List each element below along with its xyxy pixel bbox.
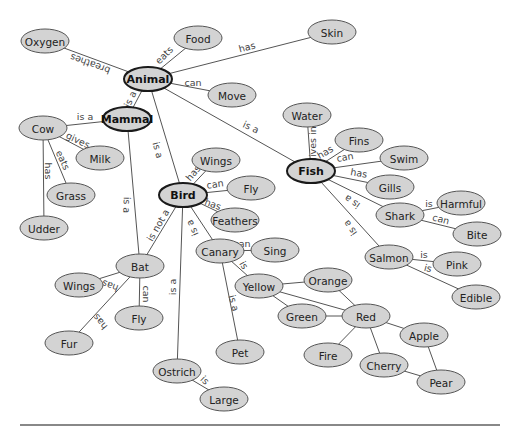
node-grass: Grass — [47, 183, 95, 207]
edge-label: is — [425, 198, 433, 209]
node-label: Mammal — [101, 113, 154, 126]
node-gills: Gills — [366, 175, 414, 199]
semantic-network-diagram: breatheseatshascanis ais ais ais ais agi… — [0, 0, 520, 432]
edge-label: can — [336, 150, 355, 164]
node-label: Fins — [349, 135, 369, 147]
edge-line — [148, 79, 183, 195]
node-label: Shark — [385, 210, 416, 222]
node-salmon: Salmon — [365, 245, 413, 269]
node-sing: Sing — [251, 238, 299, 262]
node-label: Cherry — [366, 360, 401, 372]
node-yellow: Yellow — [235, 274, 283, 298]
edge-label: has — [315, 143, 335, 161]
node-label: Milk — [90, 153, 112, 165]
node-udder: Udder — [20, 216, 68, 240]
edge-line — [177, 195, 183, 371]
node-cow: Cow — [19, 116, 67, 140]
edge-mammal-bat — [127, 119, 140, 266]
node-label: Wings — [63, 280, 95, 292]
node-mammal: Mammal — [101, 107, 154, 131]
edge-label: has — [90, 312, 109, 332]
node-label: Food — [185, 33, 210, 45]
edge-animal-bird — [148, 79, 183, 195]
node-label: Bite — [467, 229, 488, 241]
node-label: Fish — [298, 165, 324, 178]
node-ostrich: Ostrich — [153, 359, 201, 383]
node-label: Swim — [390, 153, 418, 165]
node-shark: Shark — [376, 203, 424, 227]
node-feathers: Feathers — [211, 208, 259, 232]
node-label: Udder — [28, 223, 60, 235]
node-label: Edible — [460, 292, 492, 304]
node-label: Pet — [232, 347, 249, 359]
node-label: Salmon — [369, 252, 408, 264]
node-pear: Pear — [417, 370, 465, 394]
node-label: Red — [356, 311, 376, 323]
node-label: Pear — [429, 377, 453, 389]
node-label: Water — [291, 110, 323, 122]
node-food: Food — [174, 26, 222, 50]
edge-line — [127, 119, 140, 266]
node-pink: Pink — [433, 252, 481, 276]
node-label: Move — [218, 90, 246, 102]
node-label: Harmful — [440, 198, 482, 210]
node-label: Orange — [309, 275, 348, 287]
edge-label: is a — [122, 89, 139, 109]
node-label: Green — [286, 311, 318, 323]
node-fly_bird: Fly — [227, 176, 275, 200]
node-pet: Pet — [216, 340, 264, 364]
node-label: Animal — [127, 73, 170, 86]
node-swim: Swim — [380, 146, 428, 170]
node-label: Fly — [131, 313, 146, 325]
node-label: Cow — [32, 123, 55, 135]
nodes-layer: OxygenFoodSkinAnimalMoveMammalCowMilkGra… — [19, 20, 501, 411]
node-move: Move — [208, 83, 256, 107]
node-water: Water — [283, 103, 331, 127]
node-label: Yellow — [242, 281, 276, 293]
node-bite: Bite — [453, 222, 501, 246]
node-label: Grass — [56, 190, 86, 202]
edge-label: is — [423, 262, 433, 275]
node-label: Canary — [201, 246, 238, 258]
node-canary: Canary — [196, 239, 244, 263]
node-bat: Bat — [116, 254, 164, 278]
node-edible: Edible — [452, 285, 500, 309]
node-oxygen: Oxygen — [21, 29, 69, 53]
edge-label: is — [420, 249, 428, 260]
node-skin: Skin — [308, 20, 356, 44]
edge-label: is a — [77, 111, 93, 122]
node-label: Skin — [321, 27, 343, 39]
edge-label: is a — [121, 197, 133, 214]
node-cherry: Cherry — [360, 353, 408, 377]
edge-label: has — [350, 166, 368, 180]
edge-label: is a — [227, 294, 242, 313]
node-label: Gills — [379, 182, 401, 194]
node-bird: Bird — [159, 183, 207, 207]
edge-label: is a — [184, 218, 201, 238]
node-large: Large — [200, 387, 248, 411]
node-label: Apple — [409, 330, 439, 342]
edge-label: can — [184, 77, 201, 88]
node-harmful: Harmful — [437, 191, 485, 215]
node-wings_bird: Wings — [192, 148, 240, 172]
edge-label: is a — [167, 279, 178, 295]
node-label: Fur — [61, 338, 78, 350]
node-orange: Orange — [304, 268, 352, 292]
node-wings_bat: Wings — [55, 273, 103, 297]
edge-label: is a — [151, 141, 166, 160]
node-label: Oxygen — [25, 36, 65, 48]
node-fly_bat: Fly — [115, 306, 163, 330]
node-red: Red — [342, 304, 390, 328]
node-label: Fire — [319, 350, 338, 362]
node-label: Large — [209, 394, 239, 406]
node-fire: Fire — [304, 343, 352, 367]
edge-label: is not a — [144, 207, 171, 243]
edge-bird-ostrich — [177, 195, 183, 371]
node-label: Bat — [131, 261, 149, 273]
node-animal: Animal — [124, 67, 172, 91]
edge-label: can — [431, 211, 450, 226]
node-label: Sing — [264, 245, 287, 257]
node-label: Pink — [446, 259, 469, 271]
node-label: Ostrich — [158, 366, 196, 378]
node-label: Feathers — [212, 215, 257, 227]
